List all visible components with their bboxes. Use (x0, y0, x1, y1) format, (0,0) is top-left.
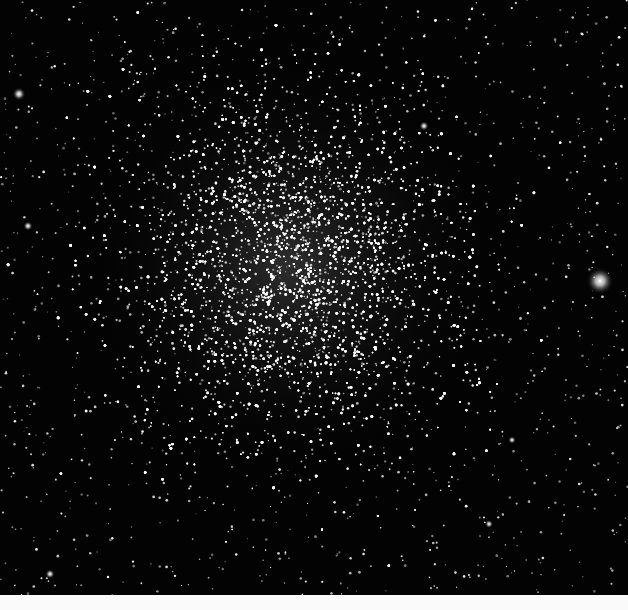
bottom-white-strip (0, 595, 628, 610)
star-cluster-photo: Dense globular star cluster against blac… (0, 0, 628, 595)
star-field-canvas (0, 0, 628, 595)
